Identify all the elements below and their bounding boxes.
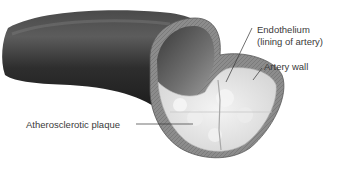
artery-diagram: Endothelium (lining of artery) Artery wa… <box>0 0 338 169</box>
endothelium-label: Endothelium <box>257 24 310 35</box>
plaque-label: Atherosclerotic plaque <box>26 119 120 130</box>
endothelium-sublabel: (lining of artery) <box>257 36 323 47</box>
artery-wall-label: Artery wall <box>264 61 308 72</box>
